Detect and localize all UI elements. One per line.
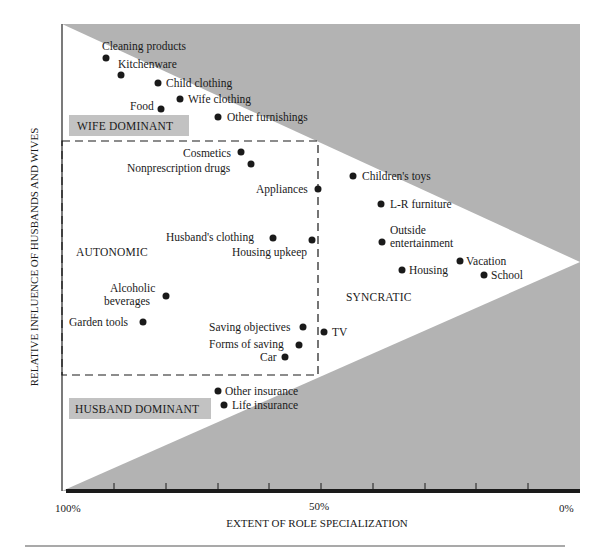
x-tick-100: 100% bbox=[55, 502, 81, 514]
point-label: beverages bbox=[104, 295, 150, 308]
role-specialization-chart: WIFE DOMINANT AUTONOMIC SYNCRATIC HUSBAN… bbox=[0, 0, 611, 557]
data-point bbox=[215, 114, 222, 121]
point-label: Appliances bbox=[256, 183, 308, 196]
point-label: Wife clothing bbox=[188, 93, 251, 106]
point-label: Other furnishings bbox=[227, 111, 308, 124]
point-label: Garden tools bbox=[69, 316, 129, 328]
data-point bbox=[309, 237, 316, 244]
point-label: School bbox=[491, 269, 523, 281]
point-label: Life insurance bbox=[232, 399, 298, 411]
wife-dominant-label: WIFE DOMINANT bbox=[77, 120, 173, 132]
data-point bbox=[378, 201, 385, 208]
point-label: Other insurance bbox=[225, 385, 298, 397]
data-point bbox=[155, 80, 162, 87]
point-label: Vacation bbox=[466, 255, 506, 267]
data-point bbox=[379, 239, 386, 246]
point-label: Alcoholic bbox=[110, 282, 155, 294]
data-point bbox=[118, 72, 125, 79]
data-point bbox=[282, 354, 289, 361]
point-label: Husband's clothing bbox=[166, 231, 254, 244]
point-label: entertainment bbox=[390, 237, 454, 249]
data-point bbox=[350, 173, 357, 180]
data-point bbox=[140, 319, 147, 326]
x-tick-0: 0% bbox=[559, 502, 574, 514]
data-point bbox=[300, 324, 307, 331]
data-point bbox=[296, 342, 303, 349]
x-axis-title: EXTENT OF ROLE SPECIALIZATION bbox=[226, 517, 408, 529]
data-point bbox=[321, 329, 328, 336]
point-label: Kitchenware bbox=[118, 58, 177, 70]
syncratic-label: SYNCRATIC bbox=[346, 291, 412, 303]
husband-dominant-label: HUSBAND DOMINANT bbox=[75, 403, 199, 415]
x-tick-50: 50% bbox=[309, 500, 329, 512]
data-point bbox=[270, 235, 277, 242]
data-point bbox=[103, 55, 110, 62]
y-axis-title: RELATIVE INFLUENCE OF HUSBANDS AND WIVES bbox=[28, 128, 40, 387]
data-point bbox=[177, 96, 184, 103]
point-label: Child clothing bbox=[166, 77, 232, 90]
point-label: L-R furniture bbox=[390, 198, 452, 210]
data-point bbox=[248, 161, 255, 168]
x-axis-bar bbox=[66, 489, 580, 493]
point-label: Outside bbox=[390, 224, 426, 236]
point-label: Housing bbox=[409, 264, 448, 277]
point-label: Saving objectives bbox=[209, 321, 291, 334]
point-label: Housing upkeep bbox=[232, 246, 307, 259]
autonomic-label: AUTONOMIC bbox=[76, 246, 148, 258]
data-point bbox=[158, 106, 165, 113]
point-label: Nonprescription drugs bbox=[127, 162, 231, 175]
data-point bbox=[481, 272, 488, 279]
point-label: Children's toys bbox=[362, 170, 431, 183]
data-point bbox=[399, 267, 406, 274]
point-label: Cleaning products bbox=[102, 40, 187, 53]
data-point bbox=[315, 186, 322, 193]
point-label: Car bbox=[260, 351, 277, 363]
data-point bbox=[221, 402, 228, 409]
data-point bbox=[457, 258, 464, 265]
point-label: Forms of saving bbox=[209, 338, 284, 351]
data-point bbox=[238, 149, 245, 156]
point-label: Food bbox=[130, 100, 154, 112]
point-label: Cosmetics bbox=[183, 147, 231, 159]
point-label: TV bbox=[332, 326, 348, 338]
data-point bbox=[215, 388, 222, 395]
data-point bbox=[163, 293, 170, 300]
